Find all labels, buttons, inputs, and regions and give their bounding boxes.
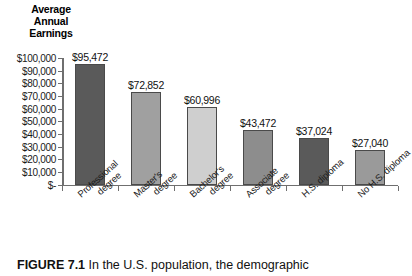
bar-value-label: $95,472 (72, 51, 108, 63)
y-axis-tick-label: $30,000 (22, 141, 56, 152)
y-axis-tick (58, 83, 62, 84)
y-axis-tick-label: $40,000 (22, 128, 56, 139)
y-axis-tick-label: $60,000 (22, 103, 56, 114)
bar-value-label: $43,472 (240, 117, 276, 129)
y-axis-tick (58, 71, 62, 72)
y-axis-tick (58, 96, 62, 97)
bar-value-label: $37,024 (296, 125, 332, 137)
figure-bar-chart: Average Annual Earnings $-$10,000$20,000… (0, 0, 411, 250)
bar-value-label: $72,852 (128, 79, 164, 91)
x-axis-tick (118, 186, 119, 191)
y-axis-tick-label: $20,000 (22, 154, 56, 165)
y-axis-tick-label: $70,000 (22, 90, 56, 101)
x-axis-tick (230, 186, 231, 191)
x-axis-tick (342, 186, 343, 191)
y-axis-tick-label: $- (48, 179, 56, 190)
y-axis-tick (58, 172, 62, 173)
figure-caption: FIGURE 7.1 In the U.S. population, the d… (17, 258, 397, 273)
y-axis-tick (58, 134, 62, 135)
chart-title-line-1: Average (31, 3, 71, 15)
x-axis-tick (398, 186, 399, 191)
bar-value-label: $60,996 (184, 94, 220, 106)
chart-title-line-3: Earnings (29, 27, 72, 39)
y-axis-tick (58, 109, 62, 110)
x-axis-tick (62, 186, 63, 191)
y-axis-tick-label: $10,000 (22, 166, 56, 177)
chart-title-line-2: Annual (34, 15, 68, 27)
x-axis-tick (286, 186, 287, 191)
y-axis-tick-label: $90,000 (22, 65, 56, 76)
y-axis-tick (58, 147, 62, 148)
figure-caption-text: In the U.S. population, the demographic (85, 258, 309, 272)
bar: $95,472 (75, 64, 105, 185)
y-axis-tick (58, 58, 62, 59)
y-axis-tick-label: $100,000 (17, 53, 56, 64)
y-axis-tick (58, 159, 62, 160)
x-axis-tick (174, 186, 175, 191)
chart-title: Average Annual Earnings (14, 3, 88, 40)
y-axis-tick-label: $80,000 (22, 78, 56, 89)
y-axis-line (62, 58, 64, 186)
bar-value-label: $27,040 (352, 137, 388, 149)
y-axis-tick (58, 121, 62, 122)
figure-caption-number: FIGURE 7.1 (17, 258, 85, 272)
y-axis-tick-label: $50,000 (22, 116, 56, 127)
